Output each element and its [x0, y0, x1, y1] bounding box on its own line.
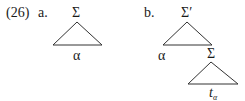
triangle-a [53, 22, 102, 45]
branch-b-left [163, 22, 187, 45]
diagram-a-root: Σ [72, 6, 80, 20]
branch-b-right [187, 22, 212, 45]
triangle-b-subtree [188, 62, 238, 84]
diagram-a-leaf: α [73, 49, 80, 63]
diagram-b-right-child: Σ [207, 47, 215, 61]
trace-subscript: α [213, 93, 217, 101]
diagram-b-trace: tα [209, 86, 217, 101]
diagram-b-left-child: α [158, 49, 165, 63]
diagram-b-root: Σ′ [181, 6, 192, 20]
